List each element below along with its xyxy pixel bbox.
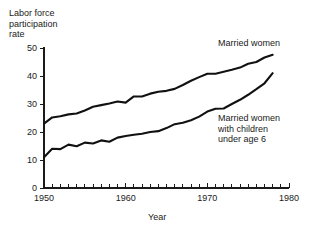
series-lines	[44, 55, 273, 157]
series-line-married-women	[44, 55, 273, 124]
x-tick-label: 1970	[197, 193, 217, 203]
plot-area: 01020304050 1950196019701980	[0, 0, 312, 232]
x-axis: 1950196019701980	[34, 183, 299, 203]
y-tick-label: 10	[27, 155, 37, 165]
y-tick-label: 30	[27, 99, 37, 109]
chart-figure: Labor force participation rate Year Marr…	[0, 0, 312, 232]
x-tick-label: 1950	[34, 193, 54, 203]
series-line-married-women-with-children	[44, 73, 273, 157]
y-axis: 01020304050	[27, 43, 44, 193]
y-tick-label: 20	[27, 127, 37, 137]
y-tick-label: 40	[27, 71, 37, 81]
y-tick-label: 0	[32, 183, 37, 193]
x-tick-label: 1960	[116, 193, 136, 203]
y-tick-label: 50	[27, 43, 37, 53]
x-tick-label: 1980	[279, 193, 299, 203]
